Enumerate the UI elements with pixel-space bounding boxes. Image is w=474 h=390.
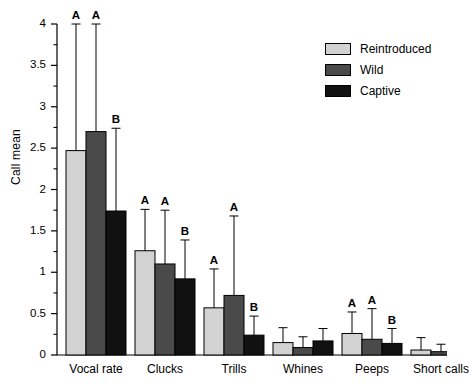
legend: ReintroducedWildCaptive	[325, 40, 431, 103]
bar	[155, 264, 175, 355]
bar	[106, 211, 126, 355]
y-tick-label: 0.5	[16, 308, 46, 320]
error-bar	[141, 209, 150, 250]
significance-letter: B	[382, 314, 402, 326]
bar	[382, 343, 402, 355]
error-bar	[319, 329, 328, 341]
legend-swatch	[325, 64, 351, 76]
y-tick-label: 1.5	[16, 225, 46, 237]
error-bar	[210, 269, 219, 308]
bar	[175, 279, 195, 355]
significance-letter: A	[66, 9, 86, 21]
bar	[244, 335, 264, 355]
bar	[362, 339, 382, 355]
significance-letter: A	[342, 297, 362, 309]
significance-letter: A	[86, 9, 106, 21]
bar	[135, 251, 155, 355]
x-category-label: Short calls	[393, 363, 474, 376]
significance-letter: A	[224, 201, 244, 213]
legend-item: Captive	[325, 82, 431, 99]
significance-letter: A	[135, 194, 155, 206]
significance-letter: B	[175, 225, 195, 237]
y-tick-label: 1	[16, 266, 46, 278]
y-tick-label: 4	[16, 18, 46, 30]
legend-swatch	[325, 43, 351, 55]
bar	[342, 333, 362, 355]
error-bar	[388, 329, 397, 344]
y-tick-label: 0	[16, 349, 46, 361]
bar	[66, 151, 86, 355]
error-bar	[279, 328, 288, 343]
y-tick-label: 2	[16, 184, 46, 196]
error-bar	[230, 216, 239, 295]
bar	[313, 341, 333, 355]
bar	[293, 348, 313, 355]
bar	[411, 350, 431, 355]
error-bar	[437, 344, 446, 351]
significance-letter: B	[244, 301, 264, 313]
legend-item: Wild	[325, 61, 431, 78]
error-bar	[299, 337, 308, 348]
legend-label: Captive	[360, 85, 401, 97]
error-bar	[348, 312, 357, 334]
bar	[224, 295, 244, 355]
error-bar	[181, 240, 190, 279]
legend-label: Reintroduced	[360, 43, 431, 55]
legend-label: Wild	[360, 64, 383, 76]
y-tick-label: 3.5	[16, 59, 46, 71]
significance-letter: A	[362, 294, 382, 306]
error-bar	[368, 309, 377, 340]
y-tick-label: 3	[16, 101, 46, 113]
legend-item: Reintroduced	[325, 40, 431, 57]
legend-swatch	[325, 85, 351, 97]
error-bar	[417, 338, 426, 350]
error-bar	[161, 210, 170, 264]
significance-letter: A	[204, 254, 224, 266]
y-tick-label: 2.5	[16, 142, 46, 154]
error-bar	[72, 24, 81, 151]
significance-letter: A	[155, 195, 175, 207]
error-bar	[92, 24, 101, 132]
bar	[431, 352, 447, 355]
error-bar	[112, 128, 121, 211]
error-bar	[250, 316, 259, 335]
bar	[204, 308, 224, 355]
significance-letter: B	[106, 113, 126, 125]
bar	[86, 132, 106, 355]
bar	[273, 343, 293, 355]
